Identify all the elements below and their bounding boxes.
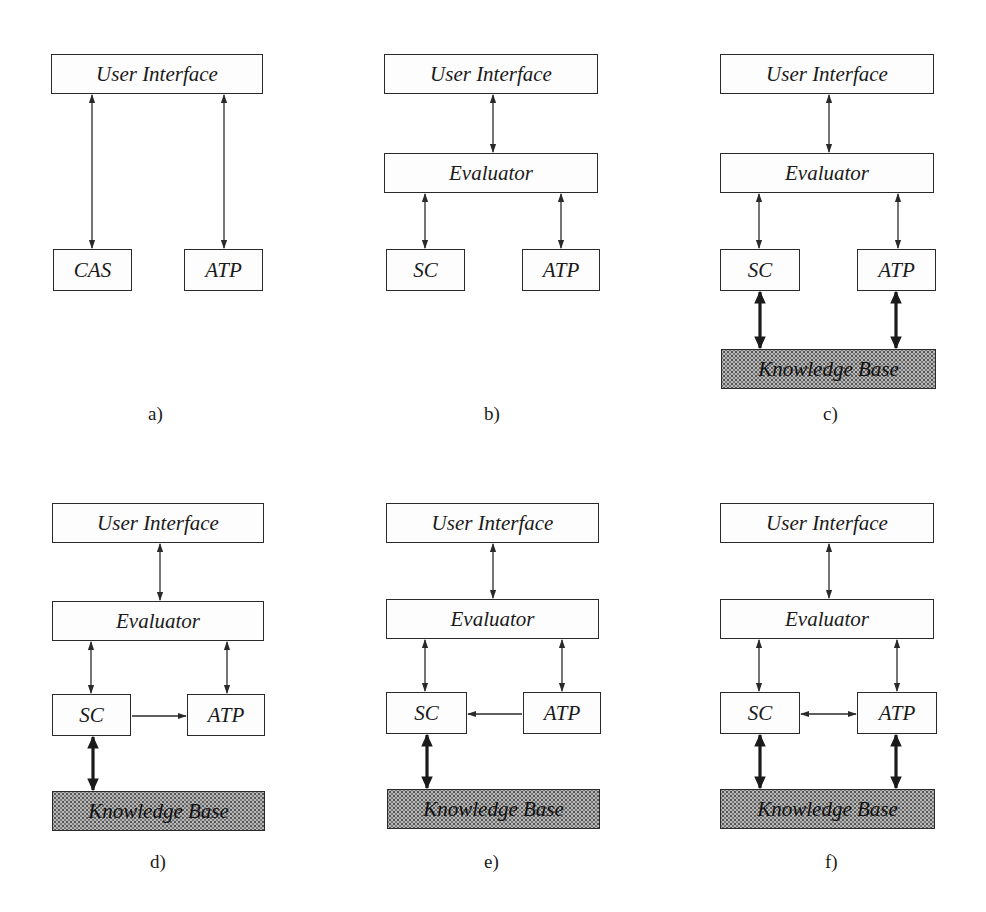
arrows-layer [0,0,986,912]
